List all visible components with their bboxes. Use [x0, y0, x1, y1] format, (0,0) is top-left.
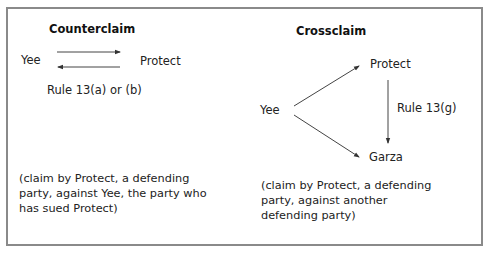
counterclaim-caption-line: (claim by Protect, a defending — [19, 172, 207, 187]
counterclaim-caption: (claim by Protect, a defending party, ag… — [19, 172, 207, 216]
crossclaim-rule: Rule 13(g) — [397, 102, 457, 115]
counterclaim-party-yee: Yee — [21, 54, 41, 67]
counterclaim-title: Counterclaim — [49, 23, 135, 36]
crossclaim-caption: (claim by Protect, a defending party, ag… — [261, 179, 431, 223]
counterclaim-party-protect: Protect — [140, 55, 181, 68]
crossclaim-party-garza: Garza — [369, 151, 403, 164]
crossclaim-caption-line: defending party) — [261, 209, 431, 224]
counterclaim-rule: Rule 13(a) or (b) — [47, 84, 142, 97]
crossclaim-party-protect: Protect — [370, 58, 411, 71]
counterclaim-caption-line: has sued Protect) — [19, 202, 207, 217]
crossclaim-caption-line: (claim by Protect, a defending — [261, 179, 431, 194]
crossclaim-caption-line: party, against another — [261, 194, 431, 209]
crossclaim-party-yee: Yee — [260, 104, 280, 117]
counterclaim-caption-line: party, against Yee, the party who — [19, 187, 207, 202]
crossclaim-title: Crossclaim — [296, 25, 366, 38]
